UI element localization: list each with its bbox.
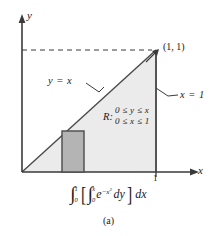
inner-differential: dy: [113, 187, 124, 202]
region-constraint-x: 0 ≤ x ≤ 1: [115, 116, 150, 127]
region-constraint-y: 0 ≤ y ≤ x: [115, 105, 150, 116]
region-name-label: R:: [103, 111, 113, 122]
bracket-close: ]: [127, 186, 132, 203]
outer-lower-limit: 0: [75, 197, 78, 204]
leader-line-y-equals-x: [86, 83, 104, 92]
x-axis-tick-label-one: 1: [153, 174, 158, 183]
integrand-exponent: −x2: [102, 188, 112, 196]
outer-upper-limit: 1: [75, 186, 78, 193]
y-axis-label: y: [27, 10, 32, 21]
outer-integral-sign: ∫ 1 0: [70, 186, 78, 203]
region-description: R: 0 ≤ y ≤ x 0 ≤ x ≤ 1: [103, 105, 150, 128]
figure-caption: (a): [0, 215, 217, 226]
y-axis-arrowhead: [19, 14, 26, 23]
line-equation-label: y = x: [48, 76, 72, 87]
integrand: e−x2: [96, 186, 112, 202]
integral-body: ∫ 1 0 [ ∫ x 0 e−x2 dy ] dx: [70, 186, 146, 203]
right-edge-equation-label: x = 1: [180, 90, 205, 101]
inner-lower-limit: 0: [92, 197, 95, 204]
figure-double-integral-region: y x 1 (1, 1) y = x x = 1 R: 0 ≤ y ≤ x 0 …: [0, 0, 217, 236]
integral-expression: ∫ 1 0 [ ∫ x 0 e−x2 dy ] dx: [0, 186, 217, 204]
corner-point-label: (1, 1): [163, 42, 185, 52]
x-axis-label: x: [198, 165, 203, 176]
outer-differential: dx: [135, 187, 146, 202]
outer-integral-limits: 1 0: [75, 186, 78, 203]
inner-integral-sign: ∫ x 0: [88, 186, 96, 203]
inner-upper-limit: x: [92, 186, 95, 193]
region-constraints: 0 ≤ y ≤ x 0 ≤ x ≤ 1: [115, 105, 150, 128]
representative-strip: [62, 131, 84, 172]
leader-line-x-equals-one: [156, 88, 178, 96]
inner-integral-limits: x 0: [92, 186, 95, 203]
integrand-exponent-power: 2: [109, 186, 112, 191]
bracket-open: [: [81, 186, 86, 203]
